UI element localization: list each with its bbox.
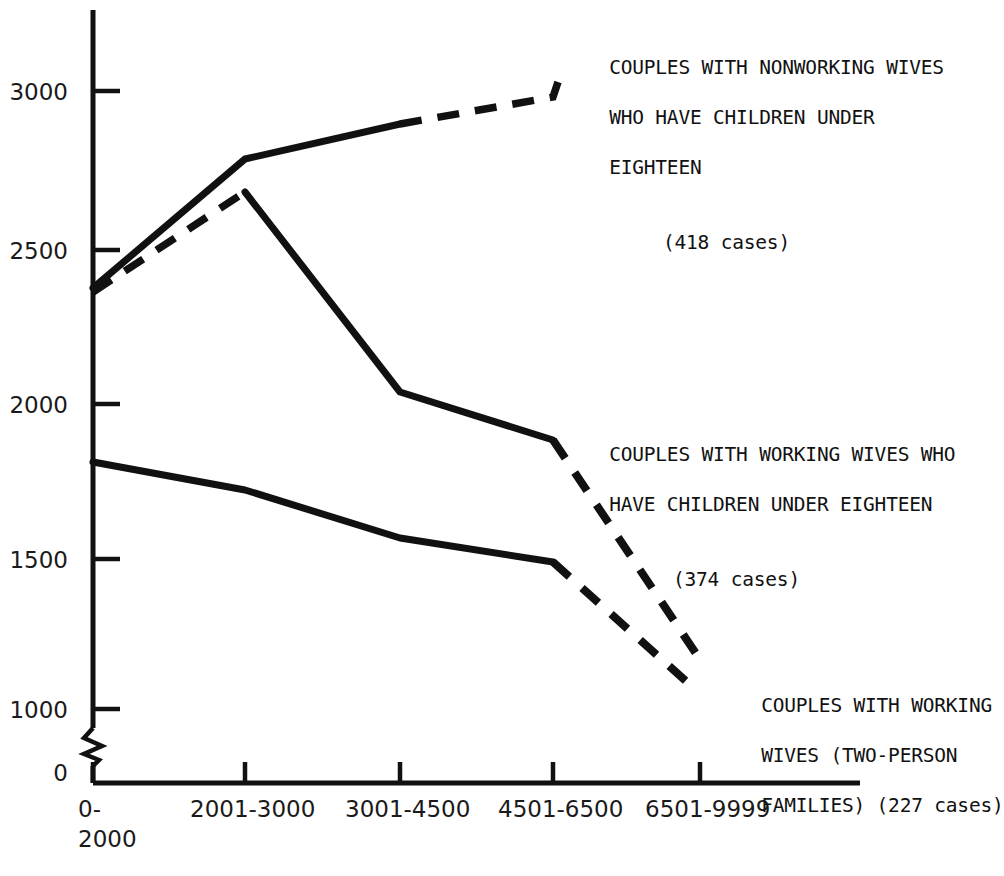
- series-working-children-dashed-lead: [93, 192, 245, 292]
- series-two-person-solid: [93, 462, 553, 562]
- series-label-nonworking-wives: COUPLES WITH NONWORKING WIVES WHO HAVE C…: [563, 30, 944, 305]
- y-tick-label-1500: 1500: [0, 547, 68, 573]
- y-tick-label-2000: 2000: [0, 392, 68, 418]
- series-label-nonworking-cases: (418 cases): [563, 230, 944, 255]
- series-nonworking-dashed: [400, 82, 558, 124]
- x-tick-label-4501-6500: 4501-6500: [498, 796, 623, 822]
- series-label-working-wives-children: COUPLES WITH WORKING WIVES WHO HAVE CHIL…: [563, 417, 955, 642]
- x-tick-label-3001-4500: 3001-4500: [345, 796, 470, 822]
- series-label-two-person-line2: WIVES (TWO-PERSON: [761, 744, 957, 767]
- y-tick-label-2500: 2500: [0, 238, 68, 264]
- y-tick-label-3000: 3000: [0, 79, 68, 105]
- y-tick-label-0: 0: [0, 760, 68, 786]
- series-label-nonworking-line2: WHO HAVE CHILDREN UNDER: [609, 106, 874, 129]
- y-tick-label-1000: 1000: [0, 697, 68, 723]
- x-axis-ticks: [93, 762, 700, 783]
- x-tick-label-0-2000-line1: 0-: [78, 796, 101, 822]
- series-label-nonworking-line3: EIGHTEEN: [609, 156, 701, 179]
- series-label-nonworking-line1: COUPLES WITH NONWORKING WIVES: [609, 56, 944, 79]
- x-tick-label-0-2000-line2: 2000: [78, 826, 137, 852]
- series-label-working-children-cases: (374 cases): [563, 567, 955, 592]
- series-label-working-children-line1: COUPLES WITH WORKING WIVES WHO: [609, 443, 955, 466]
- series-working-children-solid: [245, 192, 553, 440]
- x-tick-label-2001-3000: 2001-3000: [190, 796, 315, 822]
- series-label-two-person-line3: FAMILIES) (227 cases): [761, 794, 1003, 817]
- series-label-working-children-line2: HAVE CHILDREN UNDER EIGHTEEN: [609, 493, 932, 516]
- y-axis-ticks: [93, 91, 120, 709]
- series-label-two-person-families: COUPLES WITH WORKING WIVES (TWO-PERSON F…: [715, 668, 1004, 843]
- y-axis-break-zigzag: [84, 728, 102, 766]
- series-label-two-person-line1: COUPLES WITH WORKING: [761, 694, 992, 717]
